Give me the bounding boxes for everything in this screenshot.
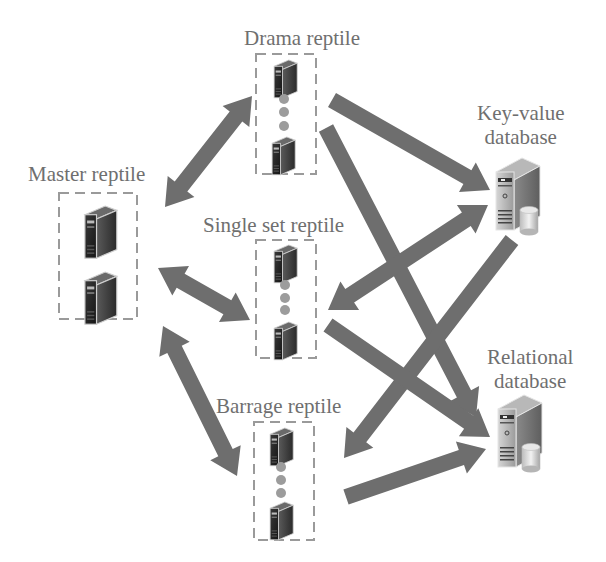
ellipsis-dot [276,475,286,485]
key-value-label-line1: Key-value [477,101,564,125]
arrow-single-set-to-relational-db [324,318,491,437]
ellipsis-dot [280,293,290,303]
diagram-canvas [0,0,606,562]
drama-ellipsis-dots [279,94,289,131]
relational-database-label: Relational database [487,345,573,393]
single-set-reptile-label: Single set reptile [203,213,344,237]
single-set-server-icon [274,322,297,360]
relational-label-line2: database [487,369,573,393]
key-value-database-icon [496,158,540,236]
arrow-master-to-drama [165,96,252,207]
single-set-server-icon [274,245,297,283]
relational-database-icon [498,395,542,473]
drama-server-icon [272,137,295,175]
key-value-database-label: Key-value database [477,101,564,149]
barrage-reptile-label: Barrage reptile [216,394,341,418]
master-server-icon [85,272,117,324]
ellipsis-dot [276,488,286,498]
arrow-master-to-single-set [158,266,250,322]
arrows-layer [158,93,518,505]
key-value-label-line2: database [477,125,564,149]
relational-label-line1: Relational [487,345,573,369]
ellipsis-dot [279,107,289,117]
drama-reptile-label: Drama reptile [244,26,360,50]
ellipsis-dot [279,94,289,104]
master-reptile-label: Master reptile [28,162,145,186]
arrow-barrage-to-relational-db [343,441,486,504]
master-server-icon [85,206,117,258]
ellipsis-dot [280,305,290,315]
barrage-server-icon [270,502,293,540]
ellipsis-dot [280,280,290,290]
single-set-ellipsis-dots [280,280,290,315]
drama-server-icon [274,60,297,98]
barrage-ellipsis-dots [276,462,286,498]
ellipsis-dot [279,121,289,131]
barrage-server-icon [270,428,293,466]
ellipsis-dot [276,462,286,472]
